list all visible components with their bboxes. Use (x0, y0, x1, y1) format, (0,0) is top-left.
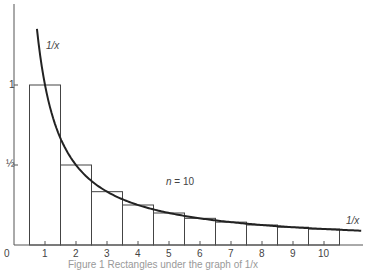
rectangle-bar (185, 218, 216, 245)
rectangle-bar (123, 205, 154, 245)
rectangle-bar (92, 192, 123, 245)
x-tick-label: 9 (290, 249, 296, 259)
x-tick-label: 10 (318, 249, 329, 259)
curve-label-top: 1/x (46, 41, 59, 51)
y-tick-label-half: ½ (6, 159, 14, 169)
x-tick-label: 6 (197, 249, 203, 259)
rectangle-bar (154, 213, 185, 245)
x-tick-label: 4 (135, 249, 141, 259)
curve-1-over-x (37, 29, 361, 231)
x-tick-label: 7 (228, 249, 234, 259)
rectangle-bar (30, 85, 61, 245)
x-tick-label: 0 (4, 249, 10, 259)
y-tick-label-one: 1 (9, 80, 15, 90)
x-tick-label: 3 (104, 249, 110, 259)
x-tick-label: 1 (42, 249, 48, 259)
axes (14, 4, 363, 245)
x-tick-label: 2 (73, 249, 79, 259)
x-tick-label: 8 (259, 249, 265, 259)
figure-caption: Figure 1 Rectangles under the graph of 1… (68, 259, 258, 270)
x-tick-label: 5 (166, 249, 172, 259)
n-label: n = 10 (166, 177, 194, 187)
curve-label-right: 1/x (346, 216, 359, 226)
n-value: = 10 (172, 176, 195, 187)
